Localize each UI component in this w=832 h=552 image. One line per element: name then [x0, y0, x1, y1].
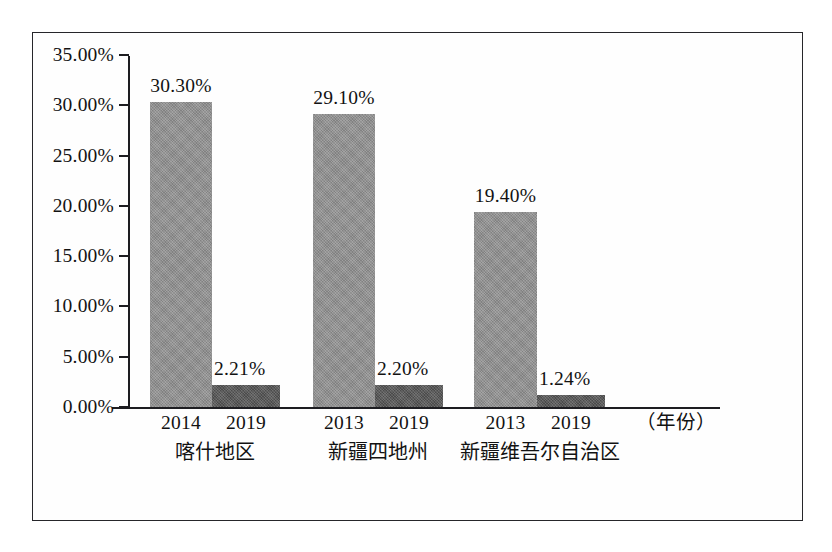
- bar-value-label: 2.21%: [214, 359, 265, 379]
- x-axis-year-label: 2019: [551, 412, 591, 434]
- x-axis-year-label: 2013: [324, 412, 364, 434]
- bar-value-label: 30.30%: [150, 76, 211, 96]
- x-axis-line: [112, 407, 720, 409]
- y-axis-tick-label: 30.00%: [22, 95, 114, 115]
- bar-value-label: 1.24%: [539, 369, 590, 389]
- y-axis-tick-label: 35.00%: [22, 45, 114, 65]
- bar: [474, 212, 537, 407]
- y-axis-tick-text: 25.00%: [28, 146, 114, 166]
- x-axis-group-label: 新疆维吾尔自治区: [460, 440, 620, 464]
- bar-chart: 0.00%5.00%10.00%15.00%20.00%25.00%30.00%…: [0, 0, 832, 552]
- bar: [375, 385, 443, 407]
- y-axis-tick-label: 20.00%: [22, 196, 114, 216]
- x-axis-group-label: 喀什地区: [175, 440, 255, 464]
- bar-value-label: 2.20%: [377, 359, 428, 379]
- y-axis-tick: [119, 255, 129, 257]
- y-axis-tick: [119, 104, 129, 106]
- bar-value-label: 19.40%: [475, 186, 536, 206]
- y-axis-tick-text: 5.00%: [28, 347, 114, 367]
- y-axis-tick: [119, 356, 129, 358]
- bar: [313, 114, 375, 407]
- bar: [150, 102, 212, 407]
- y-axis-tick: [119, 155, 129, 157]
- bar: [212, 385, 280, 407]
- y-axis-tick-text: 15.00%: [28, 246, 114, 266]
- x-axis-year-label: 2019: [226, 412, 266, 434]
- x-axis-group-label: 新疆四地州: [328, 440, 428, 464]
- y-axis-tick: [119, 305, 129, 307]
- y-axis-tick: [119, 205, 129, 207]
- y-axis-tick-label: 0.00%: [22, 397, 114, 417]
- bar-value-label: 29.10%: [313, 88, 374, 108]
- y-axis-tick-text: 35.00%: [28, 45, 114, 65]
- y-axis-tick: [119, 406, 129, 408]
- y-axis-tick-label: 25.00%: [22, 146, 114, 166]
- y-axis-tick-label: 15.00%: [22, 246, 114, 266]
- y-axis-tick-text: 30.00%: [28, 95, 114, 115]
- y-axis-tick-label: 10.00%: [22, 296, 114, 316]
- y-axis-tick-label: 5.00%: [22, 347, 114, 367]
- x-axis-year-label: 2013: [485, 412, 525, 434]
- x-axis-title: （年份）: [636, 412, 716, 434]
- x-axis-year-label: 2014: [161, 412, 201, 434]
- y-axis-tick-text: 10.00%: [28, 296, 114, 316]
- y-axis-tick-text: 0.00%: [28, 397, 114, 417]
- x-axis-year-label: 2019: [389, 412, 429, 434]
- bar: [537, 395, 605, 407]
- y-axis-tick: [119, 54, 129, 56]
- y-axis-tick-text: 20.00%: [28, 196, 114, 216]
